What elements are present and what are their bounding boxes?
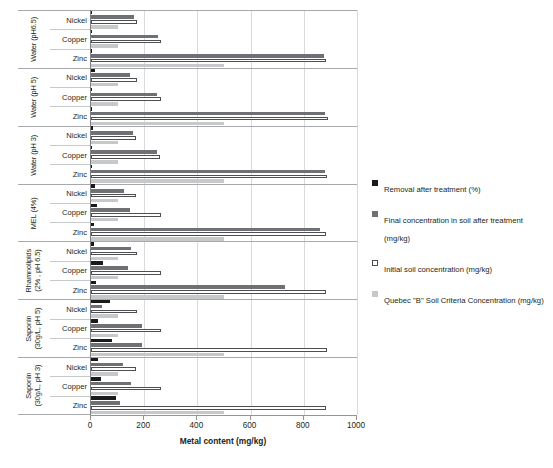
bar-final [91, 170, 325, 173]
bar-final [91, 343, 142, 346]
bar-initial [91, 194, 136, 197]
bar-final [91, 363, 123, 366]
bar-removal [91, 49, 92, 52]
bar-quebec [91, 199, 118, 202]
bar-final [91, 266, 128, 269]
bar-final [91, 15, 134, 18]
bar-initial [91, 406, 326, 409]
bar-removal [91, 107, 92, 110]
metal-label: Copper [50, 319, 90, 338]
legend-swatch-icon [372, 180, 378, 186]
bar-initial [91, 232, 326, 235]
bar-final [91, 285, 285, 288]
x-axis-title: Metal content (mg/kg) [90, 436, 356, 446]
figure: Water (pH6.5)Water (pH 5)Water (pH 3)MEL… [0, 0, 553, 468]
group-label: Water (pH 5) [18, 68, 50, 126]
bar-quebec [91, 44, 118, 47]
group-separator [91, 241, 357, 242]
bar-final [91, 73, 130, 76]
bar-removal [91, 11, 92, 14]
x-tick-label: 600 [220, 421, 280, 430]
bar-removal [91, 69, 95, 72]
bar-removal [91, 261, 103, 264]
bar-final [91, 401, 120, 404]
group-label: MEL (4%) [18, 184, 50, 242]
metal-label: Zinc [50, 338, 90, 357]
legend-item: Removal after treatment (%) [372, 178, 548, 196]
metal-label: Zinc [50, 164, 90, 183]
bar-initial [91, 78, 137, 81]
bar-quebec [91, 102, 118, 105]
bar-quebec [91, 334, 118, 337]
metal-label: Nickel [50, 241, 90, 260]
bar-quebec [91, 353, 224, 356]
group-separator [91, 184, 357, 185]
metal-label: Nickel [50, 299, 90, 318]
legend-label: Initial soil concentration (mg/kg) [384, 265, 492, 274]
group-label-line: Water (pH 3) [30, 135, 39, 176]
x-tick-label: 800 [273, 421, 333, 430]
bar-quebec [91, 179, 224, 182]
bar-quebec [91, 257, 118, 260]
legend-item: Final concentration in soil after treatm… [372, 209, 548, 245]
bar-quebec [91, 83, 118, 86]
bar-initial [91, 290, 326, 293]
bar-removal [91, 377, 101, 380]
metal-label: Copper [50, 145, 90, 164]
metal-label: Copper [50, 87, 90, 106]
gridline [251, 10, 252, 415]
bar-initial [91, 136, 136, 139]
plot-canvas [90, 10, 357, 415]
bar-removal [91, 396, 116, 399]
group-label-column: Water (pH6.5)Water (pH 5)Water (pH 3)MEL… [18, 10, 50, 415]
group-label-line: Water (pH6.5) [30, 17, 39, 62]
metal-label: Nickel [50, 184, 90, 203]
group-label-line: MEL (4%) [30, 197, 39, 229]
bar-initial [91, 310, 137, 313]
bar-removal [91, 223, 94, 226]
metal-label: Copper [50, 203, 90, 222]
bar-quebec [91, 372, 118, 375]
bar-quebec [91, 218, 118, 221]
x-axis-line [90, 415, 356, 416]
x-tick-label: 200 [113, 421, 173, 430]
y-axis-line [90, 10, 91, 415]
group-label-line: (30g/L, pH 5) [34, 308, 43, 350]
bar-quebec [91, 160, 118, 163]
group-label: Water (pH6.5) [18, 10, 50, 68]
group-separator [91, 299, 357, 300]
bar-initial [91, 40, 161, 43]
metal-label: Nickel [50, 68, 90, 87]
group-label: Rhamnolipids(2% , pH 6.5) [18, 241, 50, 299]
bar-removal [91, 30, 92, 33]
bar-quebec [91, 411, 224, 414]
metal-label: Nickel [50, 126, 90, 145]
legend-label: Removal after treatment (%) [384, 185, 481, 194]
bar-final [91, 35, 158, 38]
group-label-line: (2% , pH 6.5) [34, 249, 43, 293]
group-separator [91, 126, 357, 127]
metal-label: Zinc [50, 49, 90, 68]
bar-removal [91, 358, 98, 361]
bar-removal [91, 88, 92, 91]
bar-initial [91, 367, 136, 370]
bar-removal [91, 281, 96, 284]
bar-removal [91, 319, 98, 322]
bar-quebec [91, 122, 224, 125]
x-tick-label: 0 [60, 421, 120, 430]
legend-label: Final concentration in soil after treatm… [384, 216, 523, 243]
metal-label: Copper [50, 376, 90, 395]
bar-quebec [91, 64, 224, 67]
bar-initial [91, 175, 327, 178]
legend-item: Quebec "B" Soil Criteria Concentration (… [372, 289, 548, 307]
bar-quebec [91, 314, 118, 317]
legend-label: Quebec "B" Soil Criteria Concentration (… [384, 296, 544, 305]
x-tick [303, 415, 304, 420]
bar-initial [91, 348, 327, 351]
group-label: Saponin(30g/L, pH 5) [18, 299, 50, 357]
bar-initial [91, 252, 137, 255]
bar-quebec [91, 141, 118, 144]
bar-initial [91, 97, 161, 100]
group-separator [91, 10, 357, 11]
bar-final [91, 382, 131, 385]
